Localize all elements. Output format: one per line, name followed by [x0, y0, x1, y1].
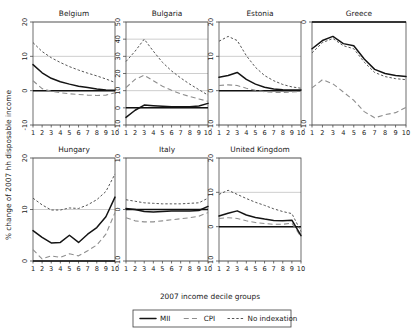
x-tick-label: 5	[67, 265, 71, 273]
y-tick-label: 20	[21, 154, 29, 162]
x-tick-label: 2	[133, 129, 137, 137]
x-tick-label: 1	[124, 265, 128, 273]
y-tick-label: 20	[114, 69, 122, 77]
y-tick-label: 10	[207, 52, 215, 60]
x-tick-label: 1	[124, 129, 128, 137]
x-tick-label: 7	[179, 265, 183, 273]
x-tick-label: 5	[160, 265, 164, 273]
panel-title: United Kingdom	[230, 145, 289, 154]
x-tick-label: 6	[362, 129, 366, 137]
x-tick-label: 4	[244, 129, 248, 137]
y-tick-label: -10	[114, 256, 122, 267]
x-tick-label: 1	[217, 129, 221, 137]
x-tick-label: 8	[188, 265, 192, 273]
x-tick-label: 3	[142, 265, 146, 273]
figure-container: -100102012345678910Belgium-1001020304050…	[0, 0, 416, 336]
x-tick-label: 8	[281, 129, 285, 137]
y-axis-label: % change of 2007 hh disposable income	[4, 89, 13, 240]
y-tick-label: 10	[114, 86, 122, 94]
x-tick-label: 7	[272, 129, 276, 137]
x-tick-label: 2	[133, 265, 137, 273]
multi-panel-line-chart: -100102012345678910Belgium-1001020304050…	[0, 0, 416, 336]
y-tick-label: 10	[114, 154, 122, 162]
x-tick-label: 9	[290, 265, 294, 273]
x-tick-label: 9	[104, 129, 108, 137]
y-tick-label: -10	[300, 120, 308, 131]
x-tick-label: 2	[226, 265, 230, 273]
y-tick-label: 10	[207, 188, 215, 196]
panel-title: Hungary	[58, 145, 90, 154]
x-tick-label: 1	[31, 129, 35, 137]
x-tick-label: 7	[179, 129, 183, 137]
x-tick-label: 8	[95, 129, 99, 137]
x-tick-label: 1	[310, 129, 314, 137]
y-tick-label: 50	[114, 18, 122, 26]
x-tick-label: 7	[272, 265, 276, 273]
y-tick-label: 20	[207, 18, 215, 26]
x-tick-label: 4	[244, 265, 248, 273]
x-tick-label: 3	[142, 129, 146, 137]
x-tick-label: 5	[352, 129, 356, 137]
legend-label-mii: MII	[160, 314, 170, 323]
x-tick-label: 3	[331, 129, 335, 137]
panel-title: Belgium	[59, 9, 89, 18]
x-tick-label: 2	[320, 129, 324, 137]
y-tick-label: 0	[21, 89, 29, 93]
y-tick-label: 10	[21, 52, 29, 60]
x-tick-label: 8	[188, 129, 192, 137]
y-tick-label: 0	[114, 207, 122, 211]
x-tick-label: 3	[235, 265, 239, 273]
x-tick-label: 3	[49, 129, 53, 137]
x-tick-label: 8	[95, 265, 99, 273]
legend-label-cpi: CPI	[204, 314, 215, 323]
legend-label-no-indexation: No indexation	[248, 314, 298, 323]
y-tick-label: 40	[114, 35, 122, 43]
x-tick-label: 5	[67, 129, 71, 137]
y-tick-label: 0	[207, 225, 215, 229]
x-tick-label: 8	[281, 265, 285, 273]
x-tick-label: 7	[86, 265, 90, 273]
x-tick-label: 10	[297, 265, 305, 273]
y-tick-label: -10	[114, 120, 122, 131]
x-tick-label: 9	[104, 265, 108, 273]
x-tick-label: 5	[160, 129, 164, 137]
y-tick-label: 20	[207, 154, 215, 162]
x-tick-label: 4	[58, 265, 62, 273]
x-tick-label: 4	[151, 129, 155, 137]
x-tick-label: 7	[86, 129, 90, 137]
x-axis-label: 2007 income decile groups	[160, 292, 260, 301]
x-tick-label: 9	[197, 265, 201, 273]
x-tick-label: 4	[151, 265, 155, 273]
x-tick-label: 8	[383, 129, 387, 137]
y-tick-label: -10	[207, 256, 215, 267]
x-tick-label: 1	[217, 265, 221, 273]
x-tick-label: 9	[197, 129, 201, 137]
y-tick-label: 0	[300, 20, 308, 24]
y-tick-label: 0	[114, 106, 122, 110]
y-tick-label: 10	[21, 205, 29, 213]
y-tick-label: 0	[21, 259, 29, 263]
x-tick-label: 6	[76, 265, 80, 273]
x-tick-label: 7	[373, 129, 377, 137]
y-tick-label: -10	[207, 120, 215, 131]
x-tick-label: 4	[341, 129, 345, 137]
x-tick-label: 3	[49, 265, 53, 273]
x-tick-label: 10	[402, 129, 410, 137]
panel-title: Italy	[159, 145, 176, 154]
x-tick-label: 1	[31, 265, 35, 273]
x-tick-label: 5	[253, 129, 257, 137]
y-tick-label: 20	[21, 18, 29, 26]
x-tick-label: 2	[40, 265, 44, 273]
x-tick-label: 2	[226, 129, 230, 137]
x-tick-label: 6	[169, 265, 173, 273]
x-tick-label: 3	[235, 129, 239, 137]
panel-title: Greece	[346, 9, 373, 18]
x-tick-label: 6	[76, 129, 80, 137]
y-tick-label: -10	[21, 120, 29, 131]
panel-title: Bulgaria	[152, 9, 183, 18]
x-tick-label: 2	[40, 129, 44, 137]
y-tick-label: 0	[207, 89, 215, 93]
x-tick-label: 6	[262, 129, 266, 137]
x-tick-label: 6	[169, 129, 173, 137]
x-tick-label: 4	[58, 129, 62, 137]
